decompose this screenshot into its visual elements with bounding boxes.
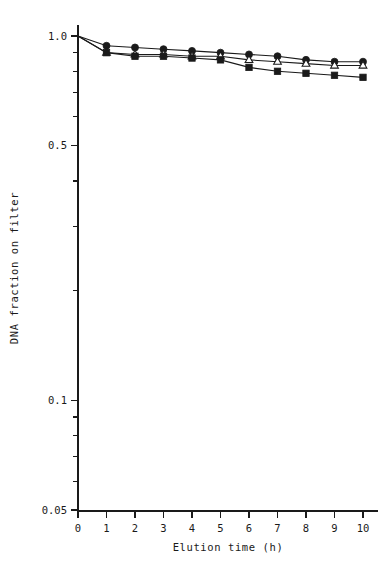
marker-square (103, 49, 109, 55)
marker-square (360, 74, 366, 80)
x-tick-label: 5 (217, 522, 223, 534)
x-tick-label: 3 (160, 522, 166, 534)
semilog-line-chart: 1.00.50.10.05 012345678910 Elution time … (0, 0, 385, 561)
x-tick-label: 9 (331, 522, 337, 534)
x-tick-label: 7 (274, 522, 280, 534)
marker-square (189, 55, 195, 61)
x-tick-label: 4 (189, 522, 195, 534)
marker-square (246, 64, 252, 70)
x-axis-title: Elution time (h) (173, 541, 284, 553)
marker-square (274, 68, 280, 74)
y-tick-label: 0.5 (48, 139, 67, 151)
x-tick-label: 6 (246, 522, 252, 534)
marker-square (132, 53, 138, 59)
x-tick-label: 1 (103, 522, 109, 534)
axes (78, 25, 378, 511)
x-tick-label: 0 (75, 522, 81, 534)
marker-square (303, 70, 309, 76)
marker-square (331, 72, 337, 78)
y-tick-label: 1.0 (48, 30, 67, 42)
marker-square (160, 53, 166, 59)
marker-square (217, 57, 223, 63)
y-axis-ticks (71, 36, 78, 510)
y-tick-label: 0.05 (42, 504, 67, 516)
x-axis-tick-labels: 012345678910 (75, 522, 369, 534)
x-tick-label: 8 (303, 522, 309, 534)
figure-panel: 1.00.50.10.05 012345678910 Elution time … (0, 0, 385, 561)
x-tick-label: 10 (357, 522, 370, 534)
x-tick-label: 2 (132, 522, 138, 534)
y-axis-title: DNA fraction on filter (8, 192, 20, 344)
x-axis-ticks (78, 511, 363, 518)
y-axis-tick-labels: 1.00.50.10.05 (42, 30, 67, 516)
y-tick-label: 0.1 (48, 394, 67, 406)
